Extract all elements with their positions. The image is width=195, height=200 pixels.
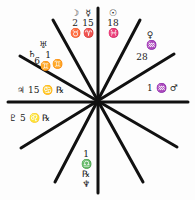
uranus-icon: ♅ [38,40,48,50]
mercury-icon: ☿ [81,8,95,18]
retrograde-icon: ℞ [79,169,93,179]
uranus-degree: 1 [44,50,52,60]
aquarius-icon: ♒ [146,40,154,50]
pisces-icon: ♓ [106,28,120,38]
taurus-icon: ♉ [70,28,80,38]
pluto-label: ♇ 5 ♌ ℞ [9,113,50,123]
venus-degree: 28 [135,52,149,62]
aries-icon: ♈ [81,28,95,38]
gemini-icon: ♊ [52,59,62,69]
venus-icon: ♀ [146,30,154,40]
mars-label: 1 ♒ ♂ [147,83,178,93]
venus-label: ♀ ♒ [146,30,154,50]
sun-icon: ☉ [106,8,120,18]
libra-icon: ♎ [79,159,93,169]
gemini-icon: ♊ [40,61,50,71]
moon-icon: ☽ [70,8,80,18]
mercury-label: ☿ 15 ♈ [81,8,95,38]
jupiter-label: ♃ 15 ♋ ℞ [17,85,64,95]
house-spokes [0,0,195,200]
neptune-label: 1 ♎ ℞ ♆ [79,149,93,189]
moon-label: ☽ 2 ♉ [70,8,80,38]
neptune-icon: ♆ [79,179,93,189]
sun-label: ☉ 18 ♓ [106,8,120,38]
astrology-chart: ☽ 2 ♉ ☿ 15 ♈ ☉ 18 ♓ ♀ ♒ 28 ♅ 1 ♊ ♄ 6 ♊ ♃… [0,0,195,200]
